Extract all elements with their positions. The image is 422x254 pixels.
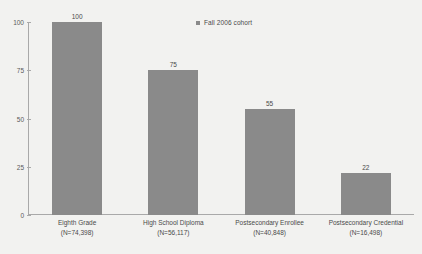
bar-chart: Fall 2006 cohort 0 25 50 75 100 1 xyxy=(0,0,422,254)
bar-eighth-grade[interactable] xyxy=(52,22,102,215)
category-label-3: Postsecondary Credential (N=16,498) xyxy=(314,218,418,237)
bar-slot-3: 22 xyxy=(341,22,391,215)
bar-slot-1: 75 xyxy=(148,22,198,215)
bar-high-school-diploma[interactable] xyxy=(148,70,198,215)
plot-area: 0 25 50 75 100 100 75 xyxy=(28,22,414,215)
bar-postsecondary-credential[interactable] xyxy=(341,173,391,215)
category-name-2: Postsecondary Enrollee xyxy=(218,218,322,228)
category-name-3: Postsecondary Credential xyxy=(314,218,418,228)
bar-value-label-0: 100 xyxy=(52,13,102,20)
y-tick-label-2: 50 xyxy=(17,115,24,122)
category-label-2: Postsecondary Enrollee (N=40,848) xyxy=(218,218,322,237)
bar-value-label-2: 55 xyxy=(245,100,295,107)
y-tick-label-4: 100 xyxy=(13,19,24,26)
category-label-0: Eighth Grade (N=74,398) xyxy=(25,218,129,237)
y-tick-label-3: 75 xyxy=(17,67,24,74)
bar-slot-2: 55 xyxy=(245,22,295,215)
category-count-2: (N=40,848) xyxy=(218,228,322,238)
category-name-0: Eighth Grade xyxy=(25,218,129,228)
y-tick-label-0: 0 xyxy=(20,212,24,219)
bar-postsecondary-enrollee[interactable] xyxy=(245,109,295,215)
category-count-0: (N=74,398) xyxy=(25,228,129,238)
category-count-1: (N=56,117) xyxy=(121,228,225,238)
bar-slot-0: 100 xyxy=(52,22,102,215)
bar-value-label-3: 22 xyxy=(341,164,391,171)
bar-value-label-1: 75 xyxy=(148,61,198,68)
category-label-1: High School Diploma (N=56,117) xyxy=(121,218,225,237)
category-axis-labels: Eighth Grade (N=74,398) High School Dipl… xyxy=(29,218,414,252)
category-name-1: High School Diploma xyxy=(121,218,225,228)
category-count-3: (N=16,498) xyxy=(314,228,418,238)
bar-group: 100 75 55 22 xyxy=(29,22,414,215)
y-tick-label-1: 25 xyxy=(17,163,24,170)
